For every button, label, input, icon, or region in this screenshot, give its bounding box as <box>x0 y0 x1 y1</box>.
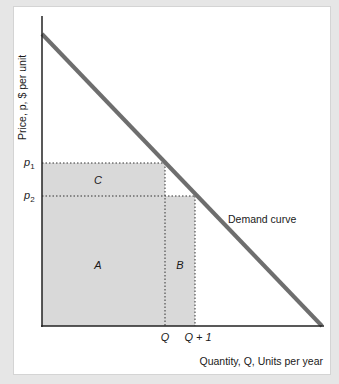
area-a-region <box>42 196 165 326</box>
area-c-region <box>42 163 165 196</box>
area-a-label: A <box>93 259 101 271</box>
p1-label: p1 <box>23 156 35 171</box>
q-plus-1-label: Q + 1 <box>184 331 211 343</box>
y-axis-label: Price, p, $ per unit <box>16 55 28 140</box>
area-b-label: B <box>176 259 183 271</box>
p2-label: p2 <box>23 189 35 204</box>
demand-curve-label: Demand curve <box>228 213 296 225</box>
x-axis-label: Quantity, Q, Units per year <box>199 355 323 367</box>
area-c-label: C <box>94 174 102 186</box>
demand-diagram: Price, p, $ per unit p1 p2 Q Q + 1 C A B… <box>0 0 339 384</box>
q-label: Q <box>161 331 170 343</box>
